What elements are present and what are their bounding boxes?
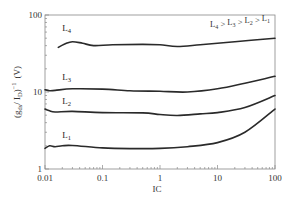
x-tick-label: 10 bbox=[213, 173, 223, 183]
y-tick-label: 1 bbox=[38, 164, 43, 174]
series-label-l1: L1 bbox=[62, 130, 71, 141]
y-title-sup: −1 bbox=[10, 82, 17, 89]
series-line-l3 bbox=[45, 76, 275, 92]
series-label-l3: L3 bbox=[62, 72, 71, 83]
series-label-l2: L2 bbox=[62, 96, 71, 107]
x-tick-label: 0.1 bbox=[97, 173, 108, 183]
x-axis-title: IC bbox=[153, 184, 162, 194]
series-line-l2 bbox=[45, 96, 275, 116]
y-tick-label: 10 bbox=[33, 87, 43, 97]
chart: 0.010.1110100110100 L4L3L2L1 IC (gds/ ID… bbox=[0, 0, 291, 207]
x-tick-label: 1 bbox=[158, 173, 163, 183]
ordering-annotation: L4 > L3 > L2 > L1 bbox=[210, 13, 270, 30]
y-axis-title: (gds/ ID)−1(V) bbox=[10, 66, 23, 118]
svg-text:(gds/ ID)−1(V): (gds/ ID)−1(V) bbox=[10, 66, 23, 118]
y-title-mid: / I bbox=[12, 97, 22, 105]
series-line-l4 bbox=[58, 38, 275, 47]
x-tick-label: 100 bbox=[268, 173, 282, 183]
series-lines bbox=[45, 38, 275, 148]
y-tick-label: 100 bbox=[29, 10, 43, 20]
x-tick-label: 0.01 bbox=[37, 173, 53, 183]
y-title-unit: (V) bbox=[12, 66, 22, 79]
series-label-l4: L4 bbox=[62, 23, 71, 34]
series-labels: L4L3L2L1 bbox=[62, 23, 71, 141]
